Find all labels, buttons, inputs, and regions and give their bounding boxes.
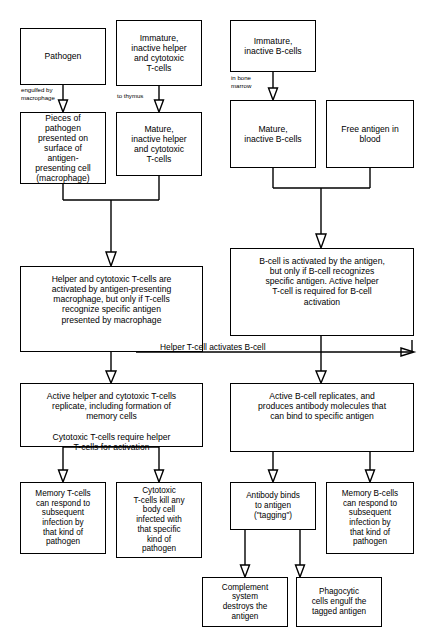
node-t-cell-replication: Active helper and cytotoxic T-cells repl… [20,383,203,447]
node-memory-b-cells-label: Memory B-cells can respond to subsequent… [342,489,398,547]
node-mature-b-cells-label: Mature, inactive B-cells [244,124,301,144]
link-label-helper-t-cell-activates-b-cell: Helper T-cell activates B-cell [160,342,266,352]
node-pathogen: Pathogen [20,28,106,85]
node-b-cell-replication: Active B-cell replicates, and produces a… [230,383,414,452]
node-complement-system: Complement system destroys the antigen [202,577,288,627]
node-free-antigen-label: Free antigen in blood [341,124,398,144]
node-pathogen-label: Pathogen [45,51,82,61]
edge-label-engulfed-by-macrophage: engulfed by macrophage [21,86,55,101]
node-complement-system-label: Complement system destroys the antigen [222,583,268,622]
flowchart-canvas: Pathogen Immature, inactive helper and c… [0,0,430,638]
node-mature-b-cells: Mature, inactive B-cells [230,100,316,168]
node-t-cell-activation: Helper and cytotoxic T-cells are activat… [20,266,203,352]
node-mature-t-cells: Mature, inactive helper and cytotoxic T-… [116,112,202,176]
node-t-cell-replication-label: Active helper and cytotoxic T-cells repl… [47,387,176,452]
node-memory-t-cells-label: Memory T-cells can respond to subsequent… [35,489,90,547]
edge-label-to-thymus: to thymus [117,92,143,100]
node-free-antigen: Free antigen in blood [326,100,414,168]
node-phagocytic-cells: Phagocytic cells engulf the tagged antig… [296,577,382,627]
node-antibody-binds: Antibody binds to antigen ("tagging") [230,482,316,530]
node-mature-t-cells-label: Mature, inactive helper and cytotoxic T-… [131,124,186,165]
node-immature-t-cells-label: Immature, inactive helper and cytotoxic … [131,33,186,74]
node-b-cell-replication-label: Active B-cell replicates, and produces a… [258,387,386,421]
node-t-cell-activation-label: Helper and cytotoxic T-cells are activat… [52,270,172,325]
node-memory-b-cells: Memory B-cells can respond to subsequent… [326,482,414,554]
edge-label-in-bone-marrow: in bone marrow [231,74,251,89]
node-antigen-presenting-cell: Pieces of pathogen presented on surface … [20,112,106,184]
node-b-cell-activation-label: B-cell is activated by the antigen, but … [259,252,385,307]
node-immature-b-cells-label: Immature, inactive B-cells [244,36,301,56]
node-antibody-binds-label: Antibody binds to antigen ("tagging") [246,491,300,520]
node-memory-t-cells: Memory T-cells can respond to subsequent… [20,482,106,554]
node-immature-b-cells: Immature, inactive B-cells [230,20,316,72]
node-immature-t-cells: Immature, inactive helper and cytotoxic … [116,20,202,86]
node-cytotoxic-t-cells-kill-label: Cytotoxic T-cells kill any body cell inf… [134,486,185,554]
node-antigen-presenting-cell-label: Pieces of pathogen presented on surface … [35,113,90,184]
node-cytotoxic-t-cells-kill: Cytotoxic T-cells kill any body cell inf… [116,482,202,558]
node-phagocytic-cells-label: Phagocytic cells engulf the tagged antig… [312,587,367,616]
node-b-cell-activation: B-cell is activated by the antigen, but … [230,248,414,336]
